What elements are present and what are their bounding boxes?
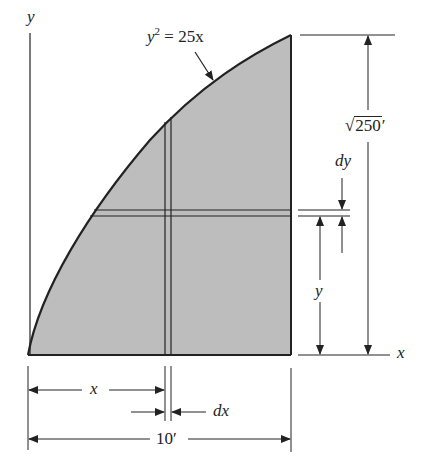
width-dimension-label: 10′ (156, 430, 177, 447)
curve-label-exponent: 2 (155, 25, 161, 37)
dx-label: dx (213, 402, 229, 419)
height-radicand: 250 (354, 116, 382, 134)
sqrt-icon: √ (345, 116, 354, 135)
x-dimension-label: x (90, 380, 98, 397)
curve-label-base: y (147, 27, 155, 46)
dy-label: dy (335, 152, 351, 169)
x-axis-label: x (397, 344, 405, 361)
y-dimension-label: y (315, 282, 323, 299)
height-unit: ′ (382, 116, 386, 135)
shaded-region (28, 35, 291, 355)
height-dimension-label: √250′ (345, 116, 386, 134)
y-axis-label: y (27, 8, 35, 25)
curve-equation-label: y2 = 25x (147, 28, 204, 45)
curve-label-rest: = 25x (160, 27, 204, 46)
curve-label-arrow (195, 52, 213, 80)
